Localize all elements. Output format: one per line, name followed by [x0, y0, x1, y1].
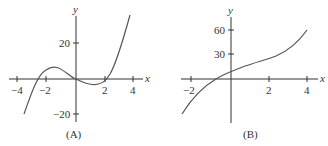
figure: −4 −2 2 4 20 −20 x y (A) −2 2 4 60 30 x …: [0, 0, 328, 146]
graph-a: −4 −2 2 4 20 −20 x y (A): [9, 3, 150, 141]
graph-b-y-label: y: [227, 4, 233, 16]
graph-a-curve: [24, 15, 130, 114]
graph-a-y-tick-label: 20: [59, 37, 71, 49]
graph-a-caption: (A): [66, 128, 82, 141]
graph-b-x-tick-label: −2: [183, 84, 195, 96]
graph-a-y-tick-label: −20: [53, 108, 71, 120]
graph-b-x-tick-label: 4: [304, 84, 310, 96]
graph-a-x-tick-label: −4: [11, 84, 23, 96]
graph-a-x-tick-label: 2: [102, 84, 108, 96]
graph-a-y-label: y: [72, 3, 78, 15]
graph-a-x-tick-label: −2: [39, 84, 51, 96]
graph-b-y-tick-label: 30: [214, 48, 226, 60]
graph-b-x-label: x: [319, 72, 325, 84]
graph-b-x-tick-label: 2: [266, 84, 272, 96]
graph-b-curve: [182, 30, 307, 114]
graph-a-x-label: x: [144, 72, 150, 84]
graph-a-x-tick-label: 4: [130, 84, 136, 96]
graph-b-y-tick-label: 60: [214, 24, 226, 36]
graph-b: −2 2 4 60 30 x y (B): [181, 4, 325, 141]
graph-b-caption: (B): [243, 128, 258, 141]
